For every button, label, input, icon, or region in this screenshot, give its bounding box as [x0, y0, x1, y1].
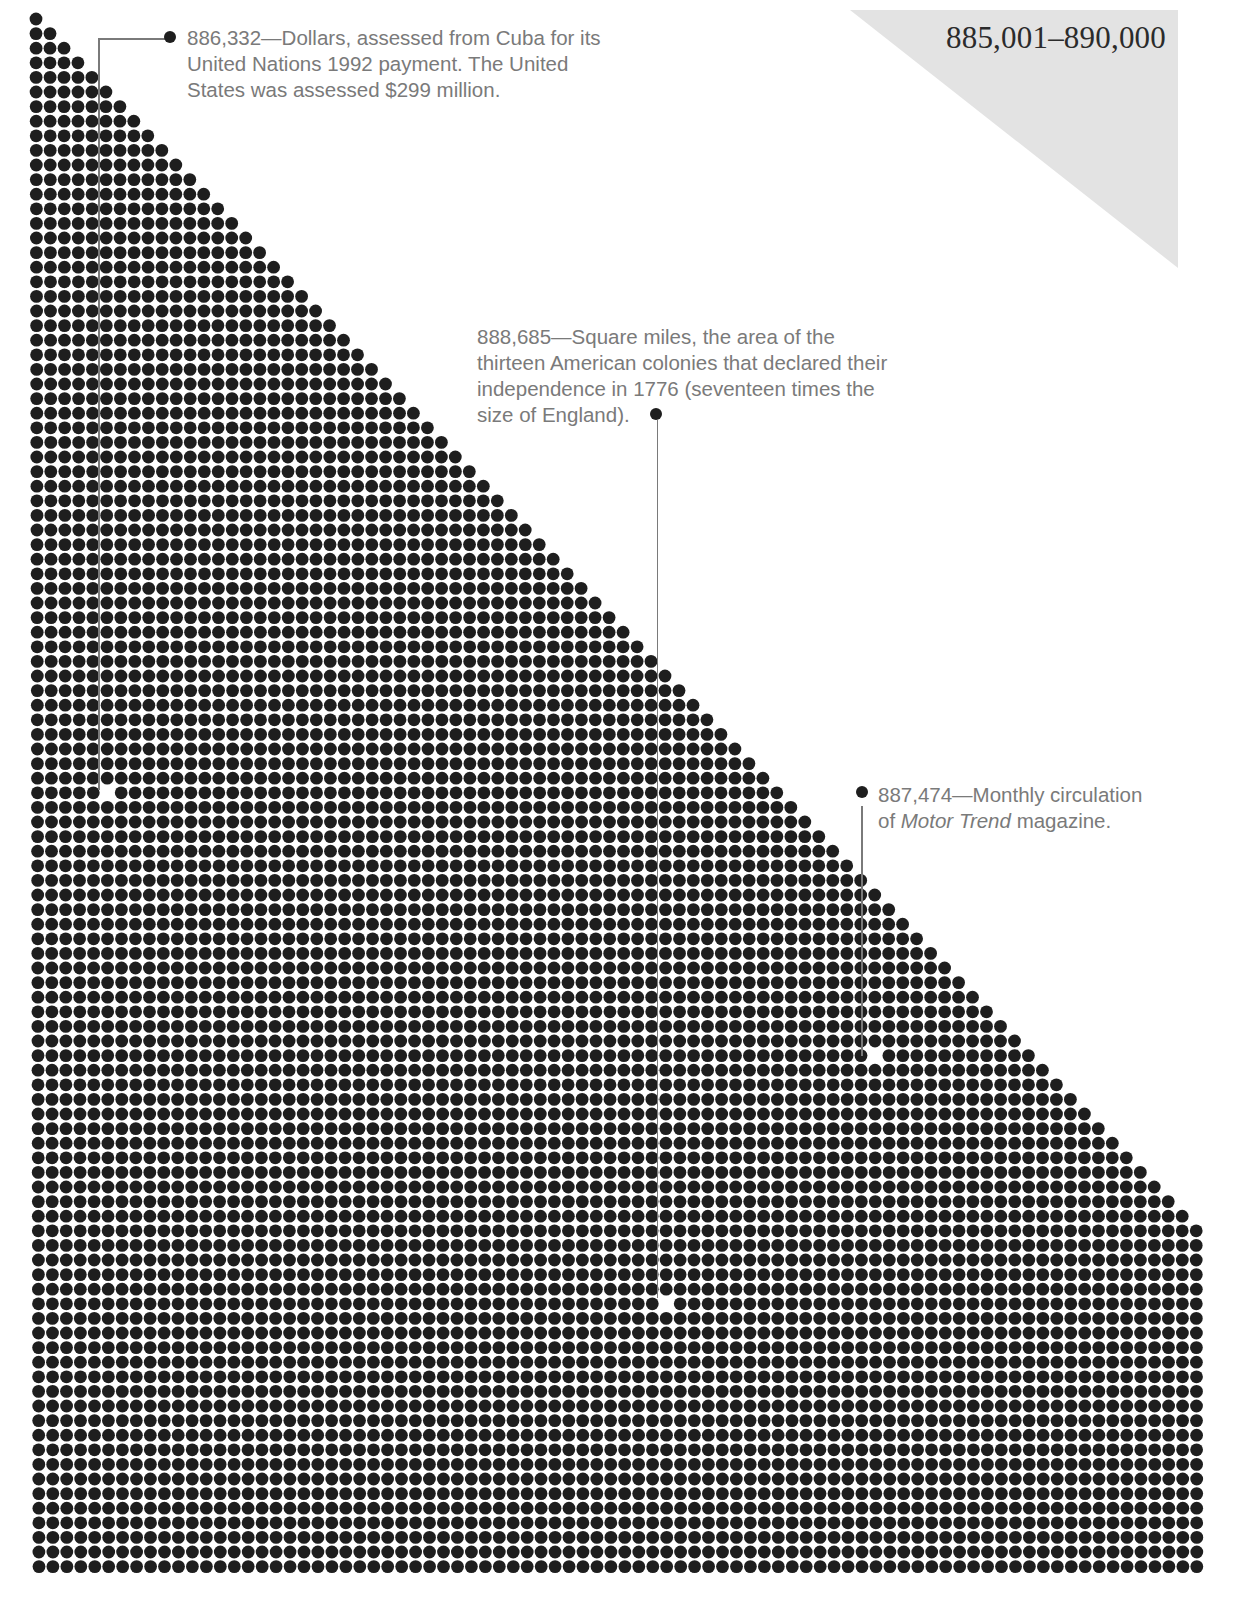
annotation-887474-magazine-title: Motor Trend [901, 809, 1011, 832]
annotation-887474-text-of: of [878, 809, 901, 832]
annotation-886332-line-2: United Nations 1992 payment. The United [187, 51, 657, 77]
annotation-886332-line-3: States was assessed $299 million. [187, 77, 657, 103]
annotation-887474-line-1: 887,474—Monthly circulation [878, 782, 1208, 808]
annotation-888685-line-4: size of England). [477, 402, 947, 428]
annotation-887474-text-magazine: magazine. [1011, 809, 1111, 832]
annotation-bullet-887474 [856, 786, 868, 798]
annotation-bullet-886332 [164, 31, 176, 43]
annotation-888685-line-2: thirteen American colonies that declared… [477, 350, 947, 376]
annotation-886332-line-1: 886,332—Dollars, assessed from Cuba for … [187, 25, 657, 51]
leader-line-887474-vertical [861, 806, 863, 1056]
annotation-888685-line-1: 888,685—Square miles, the area of the [477, 324, 947, 350]
leader-line-886332-horizontal [98, 38, 166, 40]
annotation-888685: 888,685—Square miles, the area of the th… [477, 324, 947, 428]
annotation-888685-line-3: independence in 1776 (seventeen times th… [477, 376, 947, 402]
leader-line-886332-vertical [98, 38, 100, 790]
leader-line-888685-vertical [657, 420, 659, 1298]
annotation-886332: 886,332—Dollars, assessed from Cuba for … [187, 25, 657, 103]
annotation-887474-line-2: of Motor Trend magazine. [878, 808, 1208, 834]
annotation-bullet-888685 [650, 408, 662, 420]
annotation-887474: 887,474—Monthly circulation of Motor Tre… [878, 782, 1208, 834]
